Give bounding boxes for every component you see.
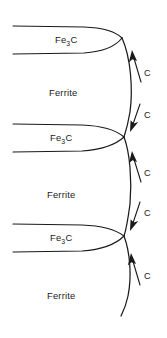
pearlite-growth-figure: Fe3C Ferrite Fe3C Ferrite Fe3C Ferrite C… (0, 0, 167, 338)
front-segment-ferrite-3 (121, 236, 130, 316)
transformation-front (121, 38, 131, 316)
carbon-arrow-up-2-head (129, 151, 137, 163)
ferrite-2-label: Ferrite (47, 189, 76, 200)
cementite-3-label-main: Fe (50, 232, 61, 243)
front-segment-ferrite-2 (124, 137, 131, 236)
ferrite-1-label: Ferrite (49, 87, 78, 98)
ferrite-3-label: Ferrite (47, 290, 76, 301)
carbon-arrow-down-2 (130, 202, 140, 231)
cementite-2-label-tail: C (65, 132, 72, 143)
carbon-label-1: C (144, 68, 151, 78)
cementite-2-label: Fe3C (50, 132, 72, 145)
cementite-1-label: Fe3C (55, 34, 77, 47)
cementite-1-top-edge (13, 26, 122, 38)
carbon-label-2: C (144, 110, 151, 120)
cementite-1-label-tail: C (70, 34, 77, 45)
front-segment-ferrite-1 (122, 38, 131, 137)
carbon-label-5: C (144, 271, 151, 281)
carbon-arrow-down-1 (130, 104, 140, 132)
carbon-arrow-up-1-head (129, 50, 137, 62)
cementite-2-label-main: Fe (50, 132, 61, 143)
figure-canvas: Fe3C Ferrite Fe3C Ferrite Fe3C Ferrite C… (0, 0, 167, 338)
carbon-label-3: C (144, 168, 151, 178)
cementite-3-label: Fe3C (50, 232, 72, 245)
cementite-1-label-main: Fe (55, 34, 66, 45)
carbon-label-4: C (144, 208, 151, 218)
cementite-3-label-tail: C (65, 232, 72, 243)
